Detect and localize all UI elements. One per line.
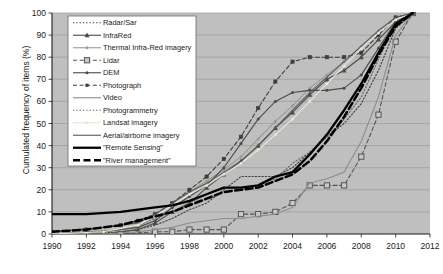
data-point-marker [274, 80, 277, 83]
y-axis-tick-label: 70 [37, 74, 47, 84]
legend-item-label: InfraRed [103, 31, 131, 40]
legend-sample-marker [85, 84, 88, 87]
data-point-marker [257, 106, 260, 109]
y-axis-tick-label: 80 [37, 52, 47, 62]
x-axis-tick-label: 2004 [283, 241, 302, 251]
data-point-marker [291, 118, 294, 121]
data-point-marker [257, 118, 260, 121]
data-point-marker [308, 100, 311, 103]
legend-sample-marker [86, 71, 89, 74]
y-axis-tick-label: 50 [37, 119, 47, 129]
data-point-marker [343, 87, 346, 90]
data-point-marker [291, 60, 294, 63]
legend-item-label: Landsat imagery [103, 118, 158, 127]
data-point-marker [360, 73, 363, 76]
data-point-marker [170, 229, 175, 234]
legend-item-label: "River management" [103, 156, 171, 165]
data-point-marker [291, 91, 294, 94]
data-point-marker [257, 137, 260, 140]
legend-item-label: DEM [103, 68, 119, 77]
legend-item-label: Video [103, 93, 122, 102]
x-axis-tick-label: 1990 [43, 241, 62, 251]
chart-legend: Radar/SarInfraRedThermal Infra-Red image… [68, 16, 196, 166]
legend-item-label: Lidar [103, 56, 120, 65]
legend-sample-marker [84, 58, 89, 63]
x-axis-tick-label: 2012 [421, 241, 440, 251]
x-axis-tick-label: 2008 [352, 241, 371, 251]
y-axis-tick-label: 20 [37, 185, 47, 195]
data-point-marker [102, 230, 105, 233]
x-axis-tick-label: 1994 [111, 241, 130, 251]
data-point-marker [274, 100, 277, 103]
data-point-marker [238, 212, 243, 217]
legend-sample-marker [86, 46, 89, 49]
data-point-marker [240, 155, 243, 158]
legend-item-label: Aerial/airborne imagery [103, 131, 180, 140]
data-point-marker [274, 133, 277, 136]
y-axis-tick-label: 100 [32, 8, 46, 18]
data-point-marker [221, 227, 226, 232]
data-point-marker [205, 175, 208, 178]
data-point-marker [240, 142, 243, 145]
chart-figure: Cumulated frequency of items (%) 0102030… [0, 0, 443, 274]
x-axis-tick-label: 2002 [249, 241, 268, 251]
legend-item-label: Photograph [103, 81, 141, 90]
y-axis-tick-label: 40 [37, 141, 47, 151]
data-point-marker [222, 157, 225, 160]
data-point-marker [204, 227, 209, 232]
x-axis-tick-label: 1992 [77, 241, 96, 251]
x-axis-tick-label: 1998 [180, 241, 199, 251]
data-point-marker [257, 149, 260, 152]
y-axis-tick-label: 90 [37, 30, 47, 40]
data-point-marker [325, 56, 328, 59]
legend-item-label: Radar/Sar [103, 18, 137, 27]
data-point-marker [187, 227, 192, 232]
y-axis-tick-label: 10 [37, 207, 47, 217]
y-axis-tick-label: 30 [37, 163, 47, 173]
data-point-marker [359, 154, 364, 159]
data-point-marker [376, 112, 381, 117]
x-axis-tick-label: 2006 [317, 241, 336, 251]
data-point-marker [342, 56, 345, 59]
y-axis-tick-label: 0 [41, 229, 46, 239]
legend-sample-marker [86, 121, 89, 124]
data-point-marker [324, 183, 329, 188]
data-point-marker [136, 224, 139, 227]
legend-item-label: Thermal Infra-Red imagery [103, 43, 192, 52]
data-point-marker [222, 166, 225, 169]
data-point-marker [239, 135, 242, 138]
data-point-marker [325, 89, 328, 92]
data-point-marker [343, 65, 346, 68]
y-axis-tick-label: 60 [37, 96, 47, 106]
line-chart: 0102030405060708090100199019921994199619… [0, 0, 443, 274]
data-point-marker [274, 120, 277, 123]
data-point-marker [154, 219, 157, 222]
data-point-marker [341, 183, 346, 188]
x-axis-tick-label: 2000 [214, 241, 233, 251]
data-point-marker [325, 82, 328, 85]
data-point-marker [205, 184, 208, 187]
data-point-marker [291, 104, 294, 107]
legend-item-label: "Remote Sensing" [103, 143, 163, 152]
x-axis-tick-label: 2010 [386, 241, 405, 251]
data-point-marker [308, 56, 311, 59]
data-point-marker [360, 51, 363, 54]
legend-item-label: Photogrammetry [103, 106, 158, 115]
x-axis-tick-label: 1996 [146, 241, 165, 251]
